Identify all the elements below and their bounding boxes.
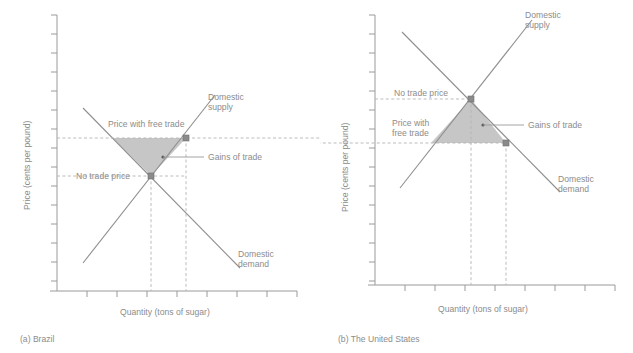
domestic-supply-label: Domestic: [208, 92, 245, 102]
panel-caption-a: (a) Brazil: [20, 334, 54, 344]
y-axis-title: Price (cents per pound): [340, 123, 350, 212]
chart-united-states: Domestic supply Domestic demand Gains of…: [320, 0, 633, 353]
x-axis-ticks: [87, 291, 297, 297]
y-axis-ticks: [369, 15, 375, 281]
no-trade-price-label: No trade price: [76, 171, 130, 181]
no-trade-equilibrium-marker: [468, 96, 474, 102]
y-axis-ticks: [51, 15, 57, 281]
x-axis-title: Quantity (tons of sugar): [120, 307, 210, 317]
chart-brazil: Domestic supply Domestic demand Gains of…: [0, 0, 320, 353]
x-axis-ticks: [405, 285, 615, 291]
gains-of-trade-label: Gains of trade: [528, 120, 582, 130]
price-with-free-trade-label: Price with: [392, 118, 429, 128]
x-axis-title: Quantity (tons of sugar): [438, 304, 528, 314]
panel-brazil: Domestic supply Domestic demand Gains of…: [0, 0, 320, 353]
panel-caption-b: (b) The United States: [338, 334, 420, 344]
no-trade-equilibrium-marker: [148, 173, 154, 179]
free-trade-supply-marker: [183, 135, 189, 141]
domestic-supply-curve: [400, 20, 532, 188]
domestic-supply-label: Domestic: [525, 10, 562, 20]
domestic-supply-label-2: supply: [208, 102, 234, 112]
panel-united-states: Domestic supply Domestic demand Gains of…: [320, 0, 633, 353]
price-with-free-trade-label: Price with free trade: [108, 119, 185, 129]
gains-of-trade-region: [431, 99, 506, 143]
domestic-demand-label-2: demand: [238, 259, 269, 269]
y-axis-title: Price (cents per pound): [22, 121, 32, 210]
free-trade-demand-marker: [503, 140, 509, 146]
domestic-demand-label: Domestic: [558, 174, 595, 184]
no-trade-price-label: No trade price: [394, 88, 448, 98]
domestic-demand-label-2: demand: [558, 184, 589, 194]
price-with-free-trade-label-2: free trade: [392, 128, 429, 138]
gains-of-trade-label: Gains of trade: [208, 152, 262, 162]
domestic-demand-curve: [402, 32, 560, 192]
domestic-supply-label-2: supply: [525, 20, 551, 30]
domestic-demand-label: Domestic: [238, 249, 275, 259]
domestic-demand-curve: [83, 108, 240, 268]
